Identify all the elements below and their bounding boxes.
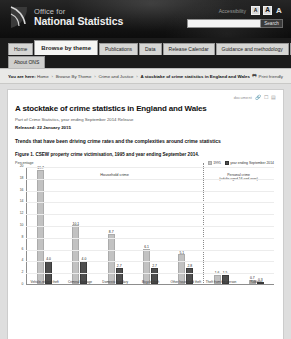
nav-item-publications[interactable]: Publications bbox=[99, 43, 138, 55]
chart-x-tick-label: Other household theft bbox=[168, 281, 203, 285]
figure-title: Figure 1. CSEW property crime victimisat… bbox=[15, 152, 276, 157]
breadcrumb: You are here: Home › Browse By Theme › C… bbox=[8, 74, 250, 79]
chart-plot-area: 02468101214161820 Household crime Person… bbox=[26, 167, 274, 285]
nav-item-guidance-and-methodology[interactable]: Guidance and methodology bbox=[216, 43, 289, 55]
breadcrumb-prefix: You are here: bbox=[8, 74, 36, 79]
legend-item-1995: 1995 bbox=[208, 161, 221, 165]
chart-y-tick: 0 bbox=[22, 283, 24, 286]
chart-x-tick-label: Criminal damage bbox=[62, 281, 97, 285]
search-button[interactable]: Search bbox=[261, 19, 283, 28]
chart-bar: 10.1 bbox=[72, 225, 79, 284]
toolbar-label: document bbox=[234, 96, 252, 100]
chart-y-tick: 2 bbox=[22, 271, 24, 274]
text-size-large-button[interactable]: A bbox=[275, 6, 283, 15]
legend-item-2014: year ending September 2014 bbox=[225, 161, 274, 165]
figure-1-chart: Percentage 1995 year ending September 20… bbox=[15, 161, 276, 309]
chart-y-tick: 20 bbox=[20, 165, 24, 168]
chart-y-axis: 02468101214161820 bbox=[15, 167, 26, 285]
text-size-medium-button[interactable]: A bbox=[263, 6, 272, 15]
print-icon[interactable]: ▤ bbox=[271, 95, 276, 100]
chart-gridline bbox=[26, 202, 274, 203]
chart-gridline bbox=[26, 273, 274, 274]
breadcrumb-bar: You are here: Home › Browse By Theme › C… bbox=[0, 68, 291, 84]
page-root: Office for National Statistics Accessibi… bbox=[0, 0, 291, 339]
nav-item-release-calendar[interactable]: Release Calendar bbox=[163, 43, 215, 55]
text-size-small-button[interactable]: A bbox=[251, 6, 260, 15]
nav-row-secondary: About ONS bbox=[8, 55, 291, 68]
chart-gridline bbox=[26, 261, 274, 262]
chart-x-tick-label: Vehicle-related theft bbox=[27, 281, 62, 285]
breadcrumb-item-browse-by-theme[interactable]: Browse By Theme bbox=[56, 74, 92, 79]
chart-x-tick-label: Robbery bbox=[239, 281, 274, 285]
chart-gridline bbox=[26, 214, 274, 215]
breadcrumb-separator: › bbox=[50, 74, 54, 79]
chart-bar-value: 5.1 bbox=[179, 252, 184, 255]
accessibility-label: Accessibility bbox=[219, 8, 246, 14]
chart-y-tick: 4 bbox=[22, 260, 24, 263]
chart-y-tick: 12 bbox=[20, 212, 24, 215]
chart-gridline bbox=[26, 238, 274, 239]
print-friendly-link[interactable]: 🖶 Print friendly bbox=[252, 72, 283, 80]
breadcrumb-item-home[interactable]: Home bbox=[37, 74, 49, 79]
legend-swatch-1995 bbox=[208, 161, 212, 165]
nav-item-data[interactable]: Data bbox=[139, 43, 162, 55]
chart-legend: 1995 year ending September 2014 bbox=[208, 161, 274, 165]
main-navigation: Home Browse by theme Publications Data R… bbox=[0, 38, 291, 68]
accessibility-controls: Accessibility A A A bbox=[219, 6, 283, 15]
article-toolbar: document 🔗 ☐ ▤ bbox=[15, 95, 276, 100]
breadcrumb-current: A stocktake of crime statistics in Engla… bbox=[140, 74, 249, 79]
page-title: A stocktake of crime statistics in Engla… bbox=[15, 104, 276, 113]
chart-gridline bbox=[26, 167, 274, 168]
chart-x-tick-label: Bicycle theft bbox=[133, 281, 168, 285]
chart-gridline bbox=[26, 250, 274, 251]
site-search: Search bbox=[187, 19, 283, 28]
chart-bar-value: 2.8 bbox=[187, 265, 192, 268]
link-icon[interactable]: 🔗 bbox=[255, 95, 261, 100]
chart-y-tick: 10 bbox=[20, 224, 24, 227]
chart-y-tick: 8 bbox=[22, 236, 24, 239]
chart-bar-value: 8.7 bbox=[109, 231, 114, 234]
chart-gridline bbox=[26, 226, 274, 227]
legend-swatch-2014 bbox=[225, 161, 229, 165]
search-input[interactable] bbox=[187, 19, 261, 28]
chart-bar: 6.1 bbox=[143, 249, 150, 284]
chart-gridline bbox=[26, 191, 274, 192]
site-header: Office for National Statistics Accessibi… bbox=[0, 0, 291, 38]
article-lead: Trends that have been driving crime rate… bbox=[15, 138, 276, 144]
breadcrumb-separator: › bbox=[93, 74, 97, 79]
nav-item-media-centre[interactable]: Media centre bbox=[290, 43, 291, 55]
breadcrumb-separator: › bbox=[135, 74, 139, 79]
nav-item-browse-by-theme[interactable]: Browse by theme bbox=[34, 40, 98, 55]
chart-y-tick: 14 bbox=[20, 201, 24, 204]
ons-swoosh-logo-icon bbox=[10, 6, 29, 29]
article-subtitle: Part of Crime Statistics, year ending Se… bbox=[15, 117, 276, 122]
chart-x-tick-label: Domestic burglary bbox=[98, 281, 133, 285]
nav-item-home[interactable]: Home bbox=[8, 43, 33, 55]
chart-bar: 8.7 bbox=[108, 234, 115, 284]
chart-bar-value: 2.7 bbox=[152, 265, 157, 268]
chart-x-axis-labels: Vehicle-related theftCriminal damageDome… bbox=[27, 281, 274, 285]
nav-row-primary: Home Browse by theme Publications Data R… bbox=[8, 40, 291, 55]
chart-y-tick: 6 bbox=[22, 248, 24, 251]
legend-label-1995: 1995 bbox=[213, 161, 221, 165]
chart-y-tick: 18 bbox=[20, 177, 24, 180]
breadcrumb-item-crime-and-justice[interactable]: Crime and Justice bbox=[98, 74, 133, 79]
print-friendly-label: Print friendly bbox=[259, 74, 283, 79]
chart-gridline bbox=[26, 179, 274, 180]
release-date: Released: 22 January 2015 bbox=[15, 125, 276, 130]
site-logo[interactable]: Office for National Statistics bbox=[10, 6, 123, 29]
legend-label-2014: year ending September 2014 bbox=[230, 161, 274, 165]
printer-icon: 🖶 bbox=[252, 72, 257, 80]
article-sheet: document 🔗 ☐ ▤ A stocktake of crime stat… bbox=[7, 89, 284, 339]
nav-item-about-ons[interactable]: About ONS bbox=[8, 56, 45, 68]
share-icon[interactable]: ☐ bbox=[264, 95, 268, 100]
chart-bar-value: 2.7 bbox=[117, 265, 122, 268]
chart-y-tick: 16 bbox=[20, 189, 24, 192]
org-name-line2: National Statistics bbox=[34, 16, 123, 27]
chart-x-tick-label: Theft from the person bbox=[203, 281, 238, 285]
